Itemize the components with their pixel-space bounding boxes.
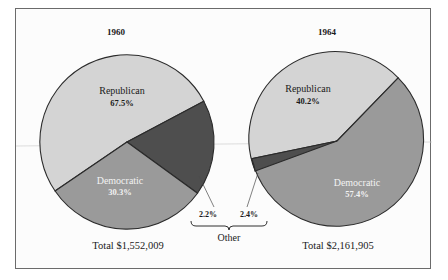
other-group-label: Other: [218, 232, 241, 243]
pie-1960-republican-pct: 67.5%: [110, 98, 133, 108]
other-pct-1964: 2.4%: [240, 210, 258, 219]
pie-1964-republican-pct: 40.2%: [296, 96, 319, 106]
pie-1960-group: 1960 Republican 67.5% Democratic 30.3% T…: [40, 27, 214, 251]
figure-container: 1960 Republican 67.5% Democratic 30.3% T…: [0, 0, 448, 280]
pie-1964-total-label: Total $2,161,905: [302, 240, 373, 251]
pie-1964-year-label: 1964: [318, 27, 337, 37]
other-callout-group: 2.2% 2.4% Other: [191, 173, 267, 243]
other-leader-line-1964: [247, 173, 258, 207]
other-pct-1960: 2.2%: [199, 210, 217, 219]
pie-1960-year-label: 1960: [107, 27, 126, 37]
pie-1960-democratic-pct: 30.3%: [108, 187, 131, 197]
pie-1964-democratic-pct: 57.4%: [345, 189, 368, 199]
pie-1964-democratic-label: Democratic: [334, 177, 381, 188]
pie-1964-republican-label: Republican: [285, 83, 331, 94]
other-leader-line-1960: [199, 176, 214, 207]
pie-1964-group: 1964 Republican 40.2% Democratic 57.4% T…: [249, 27, 424, 251]
pie-chart-svg: 1960 Republican 67.5% Democratic 30.3% T…: [0, 0, 448, 280]
other-brace: [191, 221, 267, 230]
pie-1960-republican-label: Republican: [99, 85, 145, 96]
pie-1960-total-label: Total $1,552,009: [92, 240, 163, 251]
pie-1960-democratic-label: Democratic: [97, 175, 144, 186]
